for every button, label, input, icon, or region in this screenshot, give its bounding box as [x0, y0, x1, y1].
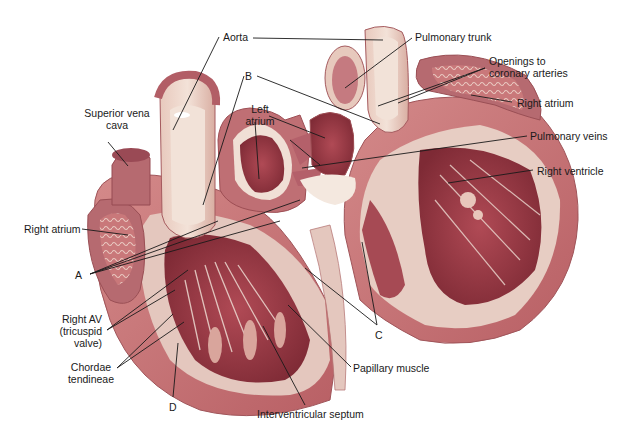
- label-papillary-muscle: Papillary muscle: [353, 362, 429, 374]
- label-right-atrium-left: Right atrium: [24, 223, 81, 235]
- label-right-atrium-right: Right atrium: [517, 97, 574, 109]
- label-left-atrium-line2: atrium: [235, 115, 285, 127]
- label-aorta: Aorta: [223, 31, 248, 43]
- label-right-ventricle: Right ventricle: [537, 165, 604, 177]
- label-openings-coronary-line2: coronary arteries: [489, 67, 568, 79]
- label-interventricular-septum: Interventricular septum: [257, 408, 364, 420]
- label-b: B: [245, 70, 252, 82]
- label-right-av-line1: Right AV: [40, 313, 102, 325]
- label-c: C: [375, 329, 383, 341]
- label-chordae-line1: Chordae: [63, 361, 119, 373]
- aorta-shape: [158, 75, 216, 239]
- label-d: D: [169, 401, 177, 413]
- label-superior-vena-cava-line1: Superior vena: [72, 107, 162, 119]
- label-a: A: [75, 269, 82, 281]
- label-pulmonary-veins: Pulmonary veins: [530, 130, 608, 142]
- label-right-av-line2: (tricuspid: [40, 325, 102, 337]
- label-superior-vena-cava-line2: cava: [72, 119, 162, 131]
- label-right-av-line3: valve): [40, 337, 102, 349]
- label-openings-coronary-line1: Openings to: [489, 55, 546, 67]
- label-pulmonary-trunk: Pulmonary trunk: [415, 31, 491, 43]
- heart-diagram: Aorta Pulmonary trunk Openings to corona…: [0, 0, 632, 442]
- label-chordae-line2: tendineae: [63, 373, 119, 385]
- label-left-atrium-line1: Left: [235, 103, 285, 115]
